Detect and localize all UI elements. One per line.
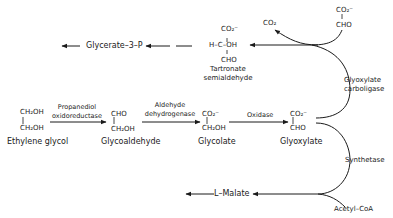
node-l-malate: L–Malate	[214, 190, 249, 198]
enzyme-aldehyde-dh-1: Aldehyde	[140, 102, 200, 109]
enzyme-aldehyde-dh-2: dehydrogenase	[140, 111, 200, 118]
tartronate-formula-mid: H–C–OH	[209, 42, 237, 49]
glycolate-formula-bottom: CH₂OH	[202, 125, 226, 132]
node-glyoxylate: Glyoxylate	[280, 138, 322, 146]
tartronate-label-2: semialdehyde	[200, 75, 256, 82]
glyoxylate-formula-bottom: CHO	[290, 125, 306, 132]
enzyme-carboligase-2: carboligase	[344, 86, 384, 93]
glyoxylate-formula-top: CO₂⁻	[290, 111, 307, 118]
ethylene-glycol-formula-bottom: CH₂OH	[20, 125, 44, 132]
node-glycoaldehyde: Glycoaldehyde	[101, 138, 160, 146]
arrow-co2	[275, 30, 318, 45]
node-co2: CO₂	[263, 20, 276, 27]
tartronate-formula-top: CO₂⁻	[221, 26, 238, 33]
glyoxylate-top-formula-bottom: CHO	[336, 22, 352, 29]
node-ethylene-glycol: Ethylene glycol	[7, 138, 68, 146]
node-glycolate: Glycolate	[198, 138, 236, 146]
ethylene-glycol-formula-top: CH₂OH	[20, 109, 44, 116]
glycoaldehyde-formula-top: CHO	[111, 111, 127, 118]
tartronate-label-1: Tartronate	[200, 66, 256, 73]
node-glycerate-3-p: Glycerate–3–P	[86, 42, 143, 50]
enzyme-propanediol-1: Propanediol	[48, 104, 106, 111]
tartronate-formula-bottom: CHO	[221, 57, 237, 64]
enzyme-synthetase: Synthetase	[345, 157, 385, 164]
glycolate-formula-top: CO₂⁻	[202, 111, 219, 118]
node-acetyl-coa: Acetyl–CoA	[334, 206, 373, 213]
glyoxylate-top-formula-top: CO₂⁻	[336, 7, 353, 14]
enzyme-propanediol-2: oxidoreductase	[48, 113, 106, 120]
enzyme-oxidase: Oxidase	[247, 112, 273, 119]
enzyme-carboligase-1: Glyoxylate	[344, 77, 381, 84]
glycoaldehyde-formula-bottom: CH₂OH	[111, 126, 135, 133]
